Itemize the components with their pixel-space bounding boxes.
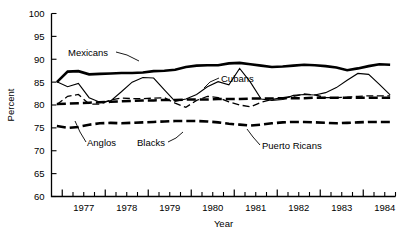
y-tick-label: 90 — [34, 54, 45, 65]
y-tick-label: 80 — [34, 99, 45, 110]
series-label-mexicans: Mexicans — [68, 47, 108, 58]
chart-figure: 6065707580859095100 19771978197919801981… — [0, 0, 417, 238]
x-tick-label: 1977 — [73, 202, 94, 213]
x-tick-label: 1983 — [331, 202, 352, 213]
y-tick-label: 65 — [34, 168, 45, 179]
x-tick-label: 1984 — [374, 202, 395, 213]
series-label-cubans: Cubans — [221, 73, 254, 84]
x-axis-title: Year — [214, 218, 233, 229]
chart-axes — [52, 14, 396, 197]
leader-line-blacks — [168, 132, 183, 142]
x-tick-label: 1978 — [116, 202, 137, 213]
leader-line-puerto-ricans — [247, 129, 260, 145]
y-tick-label: 85 — [34, 77, 45, 88]
leader-line-cubans — [204, 78, 219, 88]
y-tick-label: 100 — [29, 8, 45, 19]
series-line-puerto-ricans — [57, 94, 390, 107]
leader-line-mexicans — [116, 52, 139, 61]
x-tick-label: 1981 — [245, 202, 266, 213]
y-tick-label: 60 — [34, 191, 45, 202]
axis-lines — [52, 14, 396, 197]
leader-line-anglos — [75, 121, 86, 142]
series-label-blacks: Blacks — [137, 137, 165, 148]
series-label-puerto-ricans: Puerto Ricans — [262, 140, 322, 151]
y-tick-label: 95 — [34, 31, 45, 42]
x-tick-label: 1980 — [202, 202, 223, 213]
line-chart: 6065707580859095100 19771978197919801981… — [0, 0, 417, 238]
y-tick-label: 70 — [34, 145, 45, 156]
y-tick-label: 75 — [34, 122, 45, 133]
y-axis-ticks: 6065707580859095100 — [29, 8, 57, 202]
x-axis-ticks: 19771978197919801981198219831984 — [62, 190, 395, 213]
x-tick-label: 1982 — [288, 202, 309, 213]
series-label-anglos: Anglos — [87, 137, 116, 148]
series-line-blacks — [57, 121, 390, 128]
y-axis-title: Percent — [5, 88, 16, 121]
x-tick-label: 1979 — [159, 202, 180, 213]
